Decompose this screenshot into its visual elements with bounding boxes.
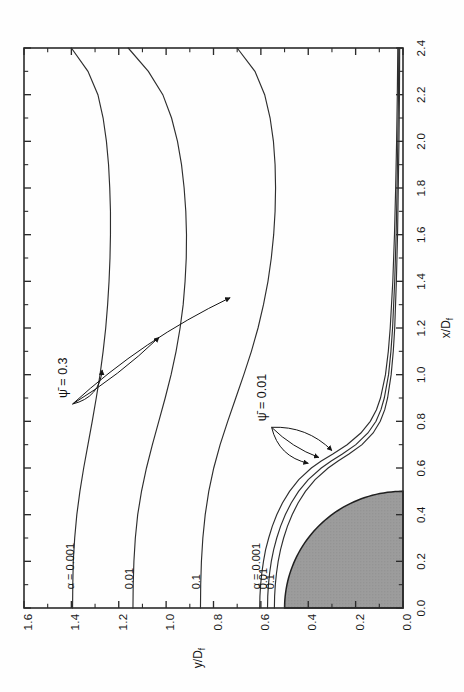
xaxis-tick-label: 0.8 bbox=[415, 413, 427, 430]
xaxis-tick-label: 0.2 bbox=[415, 553, 427, 570]
streamline-contour-chart: α = 0.0010.010.1α = 0.0010.010.1 ψ̄ = 0.… bbox=[0, 0, 464, 692]
yaxis-tick-label: 1.0 bbox=[164, 614, 176, 631]
xaxis-tick-label: 2.0 bbox=[415, 133, 427, 150]
curve-label-psi-0.3-alpha-0.1: 0.1 bbox=[190, 574, 202, 589]
xaxis-tick-label: 0.4 bbox=[415, 506, 427, 523]
xaxis-title-group: x/Df bbox=[439, 317, 455, 338]
xaxis-tick-label: 1.8 bbox=[415, 180, 427, 197]
xaxis-tick-label: 1.0 bbox=[415, 366, 427, 383]
xaxis-title: x/Df bbox=[439, 317, 455, 338]
xaxis-tick-label: 0.0 bbox=[415, 600, 427, 617]
xaxis-tick-label: 1.4 bbox=[415, 273, 427, 290]
yaxis-tick-label: 0.2 bbox=[354, 614, 366, 631]
xaxis-tick-label: 1.2 bbox=[415, 320, 427, 337]
xaxis-tick-label: 2.2 bbox=[415, 86, 427, 103]
curve-label-psi-0.01-alpha-0.1: 0.1 bbox=[264, 574, 276, 589]
yaxis-tick-label: 1.6 bbox=[22, 614, 34, 631]
xaxis-tick-label: 0.6 bbox=[415, 460, 427, 477]
yaxis-tick-label: 0.6 bbox=[259, 614, 271, 631]
yaxis-tick-label: 0.8 bbox=[212, 614, 224, 631]
xaxis-tick-label: 1.6 bbox=[415, 226, 427, 243]
psi-0.3-annotation-text: ψ̄ = 0.3 bbox=[56, 357, 70, 398]
psi-0.01-annotation-text: ψ̄ = 0.01 bbox=[255, 374, 269, 422]
yaxis-tick-label: 1.2 bbox=[117, 614, 129, 631]
curve-label-psi-0.3-alpha-0.01: 0.01 bbox=[123, 568, 135, 589]
curve-label-psi-0.3-alpha-0.001: α = 0.001 bbox=[64, 543, 76, 589]
xaxis-tick-label: 2.4 bbox=[415, 39, 427, 56]
yaxis-tick-label: 0.4 bbox=[306, 613, 318, 630]
yaxis-tick-label: 0.0 bbox=[401, 614, 413, 631]
yaxis-title: y/Df bbox=[191, 647, 207, 668]
figure-container: α = 0.0010.010.1α = 0.0010.010.1 ψ̄ = 0.… bbox=[0, 0, 464, 692]
yaxis-title-group: y/Df bbox=[191, 647, 207, 668]
yaxis-tick-label: 1.4 bbox=[69, 613, 81, 630]
